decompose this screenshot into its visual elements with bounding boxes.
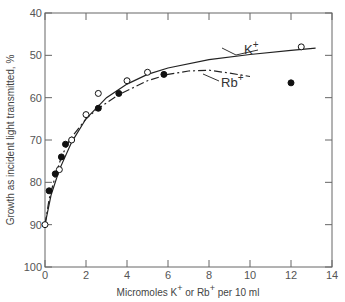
y-tick-label: 80 [30,176,42,188]
y-tick-label: 90 [30,219,42,231]
y-tick-label: 70 [30,134,42,146]
y-axis-title: Growth as incident light transmitted, % [5,55,16,226]
k-data-point [69,137,75,143]
k-data-point [83,112,89,118]
x-tick-label: 0 [42,269,48,281]
rb-data-point [95,105,101,111]
rb-data-point [52,171,58,177]
x-tick-label: 2 [83,269,89,281]
rb-data-point [46,188,52,194]
k-fit-curve [45,48,316,225]
y-tick-label: 50 [30,49,42,61]
rb-annotation: Rb+ [221,72,244,90]
y-tick-label: 60 [30,92,42,104]
x-tick-labels: 02468101214 [42,269,338,281]
rb-data-point [116,90,122,96]
chart: 405060708090100 02468101214 K+ Rb+ Micro… [0,0,345,302]
x-tick-label: 4 [124,269,130,281]
x-tick-label: 14 [326,269,338,281]
rb-arrow [203,74,219,81]
rb-data-point [63,141,69,147]
k-data-point [145,69,151,75]
k-data-point [95,90,101,96]
x-tick-label: 6 [165,269,171,281]
y-tick-label: 40 [30,7,42,19]
x-axis-title: Micromoles K+ or Rb+ per 10 ml [117,283,260,298]
rb-data-point [161,71,167,77]
x-tick-label: 8 [206,269,212,281]
k-arrow-2 [222,48,236,55]
x-tick-label: 12 [285,269,297,281]
x-tick-label: 10 [244,269,256,281]
k-data-point [42,222,48,228]
rb-data-point [58,154,64,160]
k-data-point [124,78,130,84]
y-tick-label: 100 [24,261,42,273]
k-data-point [298,44,304,50]
data-points [42,44,304,228]
rb-data-point [288,80,294,86]
rb-fit-curve [45,70,250,225]
y-tick-labels: 405060708090100 [24,7,42,273]
